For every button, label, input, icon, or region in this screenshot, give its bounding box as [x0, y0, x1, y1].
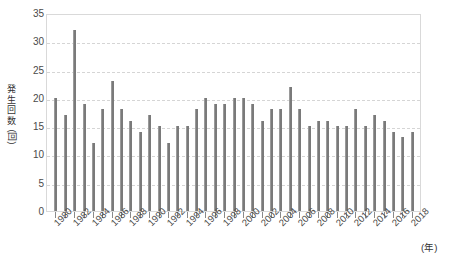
bar	[186, 126, 189, 211]
bar	[289, 87, 292, 211]
bar	[279, 109, 282, 211]
bar	[383, 121, 386, 212]
bar	[73, 30, 76, 211]
x-axis-unit-label: (年)	[421, 240, 437, 254]
bar	[148, 115, 151, 211]
y-axis-unit-text: (回)	[7, 130, 17, 145]
bar	[167, 143, 170, 211]
bar	[411, 132, 414, 211]
y-tick-label: 15	[22, 122, 44, 132]
bar	[242, 98, 245, 211]
gridline	[47, 43, 420, 44]
y-tick-label: 35	[22, 9, 44, 19]
y-tick-label: 25	[22, 66, 44, 76]
bar	[336, 126, 339, 211]
y-tick-label: 20	[22, 94, 44, 104]
bar	[261, 121, 264, 212]
y-tick-label: 30	[22, 37, 44, 47]
y-axis-title: 発 生 回 数	[4, 84, 18, 126]
bar	[83, 104, 86, 211]
bar	[111, 81, 114, 211]
bar	[158, 126, 161, 211]
bar	[401, 137, 404, 211]
bar	[120, 109, 123, 211]
bar	[251, 104, 254, 211]
bar	[233, 98, 236, 211]
bar	[326, 121, 329, 212]
bar	[298, 109, 301, 211]
bar	[204, 98, 207, 211]
bar-chart: 発 生 回 数 (回) 05101520253035 1980198219841…	[0, 0, 449, 264]
y-tick-label: 10	[22, 150, 44, 160]
y-tick-label: 0	[22, 207, 44, 217]
bar	[54, 98, 57, 211]
y-tick-label: 5	[22, 179, 44, 189]
bar	[373, 115, 376, 211]
bar	[270, 109, 273, 211]
bar	[364, 126, 367, 211]
bar	[139, 132, 142, 211]
bar	[308, 126, 311, 211]
bar	[101, 109, 104, 211]
gridline	[47, 72, 420, 73]
bar	[195, 109, 198, 211]
bar	[317, 121, 320, 212]
bar	[354, 109, 357, 211]
bar	[214, 104, 217, 211]
bar	[345, 126, 348, 211]
bar	[223, 104, 226, 211]
bar	[92, 143, 95, 211]
bar	[64, 115, 67, 211]
bar	[392, 132, 395, 211]
plot-area	[46, 14, 421, 212]
bar	[176, 126, 179, 211]
y-axis-unit-label: (回)	[4, 132, 18, 142]
bar	[129, 121, 132, 212]
